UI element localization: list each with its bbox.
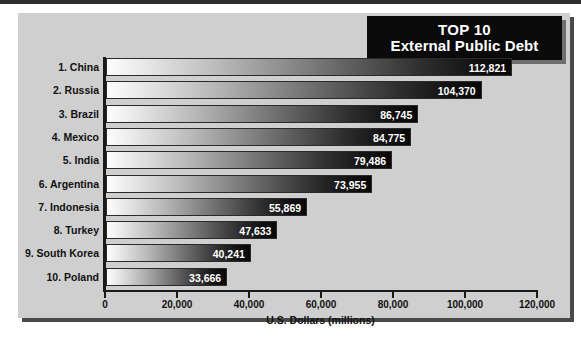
bar: 55,869: [106, 198, 307, 216]
bar-category-label: 8. Turkey: [0, 221, 99, 239]
x-axis-tick-label: 80,000: [378, 299, 409, 310]
x-axis-title: U.S. Dollars (millions): [103, 314, 538, 326]
bar-category-label: 9. South Korea: [0, 244, 99, 262]
bar-category-label: 1. China: [0, 58, 99, 76]
bar: 112,821: [106, 58, 512, 76]
x-axis-tick-label: 40,000: [234, 299, 265, 310]
bar-value-label: 40,241: [213, 245, 245, 263]
x-axis-tick: [248, 292, 250, 298]
bar-value-label: 79,486: [354, 152, 386, 170]
bar: 40,241: [106, 244, 251, 262]
bar: 104,370: [106, 81, 482, 99]
bar-value-label: 73,955: [334, 176, 366, 194]
bar: 84,775: [106, 128, 411, 146]
x-axis-tick: [464, 292, 466, 298]
x-axis-tick: [536, 292, 538, 298]
top-border-band: [0, 0, 581, 4]
bar-value-label: 84,775: [373, 129, 405, 147]
bar-row: 3. Brazil86,745: [18, 105, 570, 123]
x-axis-tick-label: 20,000: [162, 299, 193, 310]
bar-category-label: 3. Brazil: [0, 105, 99, 123]
bar-category-label: 2. Russia: [0, 81, 99, 99]
x-axis-tick-label: 100,000: [447, 299, 483, 310]
bar-row: 4. Mexico84,775: [18, 128, 570, 146]
bar: 47,633: [106, 221, 277, 239]
bar-category-label: 4. Mexico: [0, 128, 99, 146]
bar: 79,486: [106, 151, 392, 169]
bar-value-label: 47,633: [239, 222, 271, 240]
bar-value-label: 86,745: [380, 106, 412, 124]
bar-value-label: 104,370: [438, 82, 476, 100]
x-axis-tick-label: 0: [102, 299, 108, 310]
bar: 73,955: [106, 175, 372, 193]
bar-row: 5. India79,486: [18, 151, 570, 169]
bar-value-label: 33,666: [189, 269, 221, 287]
bar-row: 10. Poland33,666: [18, 268, 570, 286]
chart-panel: TOP 10 External Public Debt 020,00040,00…: [18, 13, 570, 318]
bar-row: 2. Russia104,370: [18, 81, 570, 99]
bar-row: 1. China112,821: [18, 58, 570, 76]
bar-row: 9. South Korea40,241: [18, 244, 570, 262]
plot-area: 020,00040,00060,00080,000100,000120,000 …: [18, 13, 570, 318]
bar-category-label: 6. Argentina: [0, 175, 99, 193]
bar: 86,745: [106, 105, 418, 123]
bar-row: 7. Indonesia55,869: [18, 198, 570, 216]
bar-row: 6. Argentina73,955: [18, 175, 570, 193]
bar-value-label: 112,821: [469, 59, 506, 77]
bar-category-label: 7. Indonesia: [0, 198, 99, 216]
bar-category-label: 10. Poland: [0, 268, 99, 286]
x-axis-tick: [392, 292, 394, 298]
bar-category-label: 5. India: [0, 151, 99, 169]
x-axis-tick: [176, 292, 178, 298]
bar-row: 8. Turkey47,633: [18, 221, 570, 239]
x-axis-tick: [320, 292, 322, 298]
x-axis-tick-label: 60,000: [306, 299, 337, 310]
x-axis-tick: [104, 292, 106, 298]
bar-value-label: 55,869: [269, 199, 301, 217]
bar: 33,666: [106, 268, 227, 286]
x-axis-tick-label: 120,000: [519, 299, 555, 310]
